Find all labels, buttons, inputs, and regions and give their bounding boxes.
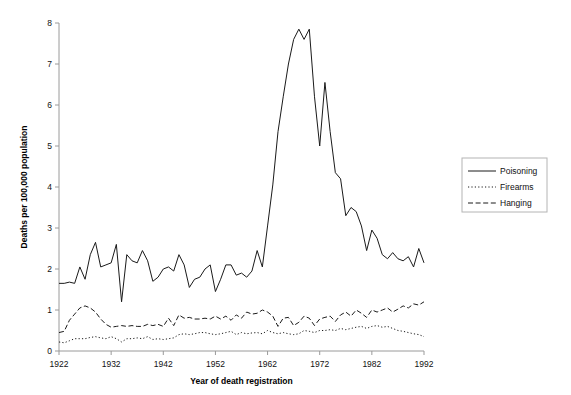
x-tick-label: 1922: [50, 359, 69, 369]
y-tick-label: 5: [47, 141, 52, 151]
x-tick-label: 1942: [154, 359, 173, 369]
y-tick-label: 1: [47, 305, 52, 315]
line-chart-svg: 0123456781922193219421952196219721982199…: [0, 0, 571, 395]
series-line-poisoning: [59, 29, 424, 302]
y-tick-label: 4: [47, 182, 52, 192]
x-axis-title: Year of death registration: [190, 376, 293, 386]
y-tick-label: 0: [47, 346, 52, 356]
x-tick-label: 1972: [310, 359, 329, 369]
y-tick-label: 8: [47, 18, 52, 28]
y-axis-title: Deaths per 100,000 population: [19, 126, 29, 249]
series-line-firearms: [59, 326, 424, 343]
x-tick-label: 1952: [206, 359, 225, 369]
chart-figure: 0123456781922193219421952196219721982199…: [0, 0, 571, 395]
legend-label-firearms: Firearms: [500, 182, 534, 192]
x-tick-label: 1962: [258, 359, 277, 369]
y-tick-label: 6: [47, 100, 52, 110]
legend-label-poisoning: Poisoning: [500, 166, 538, 176]
x-tick-label: 1982: [362, 359, 381, 369]
y-tick-label: 7: [47, 59, 52, 69]
y-tick-label: 2: [47, 264, 52, 274]
legend-label-hanging: Hanging: [500, 198, 532, 208]
y-tick-label: 3: [47, 223, 52, 233]
x-tick-label: 1992: [415, 359, 434, 369]
x-tick-label: 1932: [102, 359, 121, 369]
